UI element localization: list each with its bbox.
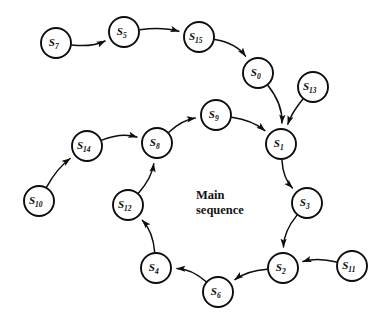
edge-s4-to-s12 [142, 220, 154, 252]
node-s14[interactable]: S14 [72, 131, 102, 161]
node-label-subscript: 8 [156, 141, 160, 150]
node-s8[interactable]: S8 [142, 128, 172, 158]
node-label-subscript: 14 [83, 144, 91, 153]
node-s1[interactable]: S1 [266, 129, 296, 159]
node-label-subscript: 12 [124, 203, 132, 212]
node-s10[interactable]: S10 [24, 186, 54, 216]
main-sequence-label: Main sequence [196, 188, 244, 218]
node-label-subscript: 9 [215, 113, 219, 122]
node-s7[interactable]: S7 [41, 28, 71, 58]
state-transition-diagram: S7S5S15S0S13S9S1S8S14S10S12S3S4S2S11S6 M… [0, 0, 385, 329]
node-s4[interactable]: S4 [141, 253, 171, 283]
node-s5[interactable]: S5 [109, 17, 139, 47]
edge-s12-to-s8 [139, 164, 154, 193]
edge-s5-to-s15 [140, 28, 179, 31]
node-label-subscript: 10 [35, 199, 43, 208]
edge-s11-to-s2 [303, 259, 337, 262]
edge-s2-to-s6 [235, 269, 267, 279]
diagram-canvas: S7S5S15S0S13S9S1S8S14S10S12S3S4S2S11S6 [0, 0, 385, 329]
node-label-subscript: 6 [217, 290, 221, 299]
node-label-subscript: 0 [257, 71, 261, 80]
node-s6[interactable]: S6 [203, 277, 233, 307]
node-label-subscript: 1 [280, 142, 284, 151]
edge-s13-to-s1 [288, 99, 303, 124]
nodes-layer: S7S5S15S0S13S9S1S8S14S10S12S3S4S2S11S6 [24, 17, 367, 307]
node-s0[interactable]: S0 [243, 58, 273, 88]
node-s12[interactable]: S12 [113, 190, 143, 220]
node-label-subscript: 4 [154, 266, 159, 275]
edge-s1-to-s3 [282, 160, 292, 188]
node-s11[interactable]: S11 [337, 251, 367, 281]
node-label-subscript: 5 [123, 30, 127, 39]
edge-s9-to-s1 [232, 117, 265, 130]
node-label-subscript: 11 [348, 264, 355, 273]
edge-s14-to-s8 [102, 135, 137, 140]
edge-s10-to-s14 [47, 159, 70, 187]
edge-s3-to-s2 [283, 215, 296, 247]
node-label-subscript: 3 [305, 201, 310, 210]
node-label-subscript: 7 [55, 41, 59, 50]
node-s3[interactable]: S3 [292, 188, 322, 218]
edge-s0-to-s1 [268, 86, 282, 124]
node-label-subscript: 13 [309, 85, 317, 94]
node-s2[interactable]: S2 [268, 253, 298, 283]
edge-s15-to-s0 [215, 40, 246, 57]
edge-s6-to-s4 [177, 268, 206, 281]
edge-s7-to-s5 [72, 41, 105, 46]
node-s13[interactable]: S13 [298, 72, 328, 102]
node-label-subscript: 2 [281, 266, 286, 275]
node-label-subscript: 15 [195, 35, 203, 44]
edge-s8-to-s9 [169, 118, 195, 132]
node-s15[interactable]: S15 [184, 22, 214, 52]
node-s9[interactable]: S9 [201, 100, 231, 130]
